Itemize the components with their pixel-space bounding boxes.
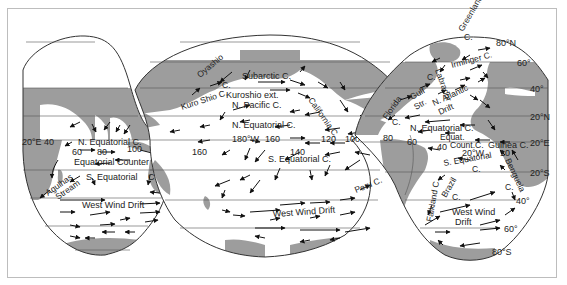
- lat-label-80n: 80°N: [496, 38, 516, 48]
- label-subarctic: Subarctic C.: [242, 71, 291, 81]
- lon-label-100e: 100: [127, 144, 142, 154]
- lon-label-80w: 80: [383, 133, 393, 143]
- label-benguela-c: C.: [505, 182, 514, 192]
- label-atlantic-drift: Drift: [455, 217, 472, 227]
- lat-label-20s: 20°S: [530, 168, 550, 178]
- lon-label-180w: 180°W: [232, 134, 260, 144]
- atlantic-ocean-lobe: Greenland C. Irminger C. Labrador C. Gul…: [350, 0, 550, 265]
- label-pacific-s-equatorial: S. Equatorial C.: [268, 154, 331, 164]
- lat-label-60n: 60°: [517, 58, 531, 68]
- label-kuroshio-ext: Kuroshio ext.: [226, 90, 279, 100]
- lon-label-20e-40: 20°E 40: [22, 137, 54, 147]
- label-greenland: Greenland: [456, 0, 485, 33]
- lat-label-40n: 40°: [530, 84, 544, 94]
- lon-label-80e: 80: [97, 147, 107, 157]
- label-brazil-c: C.: [452, 192, 461, 202]
- label-atlantic-west-wind: West Wind: [452, 207, 495, 217]
- lat-label-20n: 20°N: [530, 112, 550, 122]
- label-greenland-c: C.: [464, 32, 473, 42]
- label-indian-west-wind-drift: West Wind Drift: [82, 200, 145, 210]
- lat-label-40s: 40°: [516, 196, 530, 206]
- lon-label-10w: 10: [500, 148, 510, 158]
- label-florida-c: C.: [392, 117, 401, 127]
- label-pacific-n-equatorial: N. Equatorial C.: [232, 120, 296, 130]
- lon-label-120w: 120: [321, 134, 336, 144]
- label-labrador-c: C.: [427, 72, 436, 82]
- lon-label-40w: 40: [437, 142, 447, 152]
- lon-label-60e: 60: [72, 147, 82, 157]
- ocean-currents-map: 20°E 40 N. Equatorial C. 60 80 100 120 1…: [0, 0, 567, 285]
- lat-label-80s: 80°S: [492, 247, 512, 257]
- lon-label-160e: 160: [192, 147, 207, 157]
- label-indian-s-equatorial: S. Equatorial: [86, 172, 138, 182]
- lon-label-60w: 60: [407, 137, 417, 147]
- label-n-pacific: N. Pacific C.: [232, 100, 282, 110]
- label-equatorial-counter: Equatorial Counter C.: [74, 157, 161, 167]
- label-atlantic-s-equatorial-c: C.: [472, 164, 481, 174]
- lat-label-eq-20e: 20°E: [530, 138, 550, 148]
- lon-label-160w: 160: [265, 134, 280, 144]
- lat-label-60s: 60°: [504, 224, 518, 234]
